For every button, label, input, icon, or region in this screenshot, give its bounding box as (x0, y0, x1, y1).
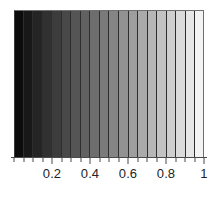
colormap-band (119, 10, 129, 157)
x-axis-tick (14, 157, 15, 162)
x-axis-tick (156, 157, 157, 162)
x-axis-tick-marks (14, 157, 204, 164)
colormap-band (138, 10, 148, 157)
colormap-band (43, 10, 53, 157)
colormap-band (167, 10, 177, 157)
colormap-band (52, 10, 62, 157)
x-axis-tick (99, 157, 100, 162)
x-axis-tick-label: 0.4 (81, 166, 99, 181)
x-axis-tick (118, 157, 119, 162)
colormap-band (100, 10, 110, 157)
x-axis-tick (185, 157, 186, 162)
x-axis-tick (61, 157, 62, 162)
x-axis-tick (33, 157, 34, 162)
colormap-band (148, 10, 158, 157)
colormap-band-strip (14, 10, 204, 157)
colormap-band (109, 10, 119, 157)
grayscale-colormap-figure: 0.20.40.60.81 (0, 0, 219, 198)
colormap-band (71, 10, 81, 157)
colormap-band (195, 10, 204, 157)
colormap-band (62, 10, 72, 157)
colormap-band (14, 10, 24, 157)
colormap-band (33, 10, 43, 157)
x-axis-tick (52, 157, 53, 164)
x-axis-tick (175, 157, 176, 162)
x-axis-tick-label: 0.2 (43, 166, 61, 181)
x-axis-tick (23, 157, 24, 162)
x-axis-tick (137, 157, 138, 162)
x-axis-tick (109, 157, 110, 162)
x-axis-tick (194, 157, 195, 162)
plot-area (14, 10, 204, 157)
x-axis-tick (42, 157, 43, 162)
colormap-band (24, 10, 34, 157)
x-axis-tick (204, 157, 205, 164)
x-axis-tick-label: 0.6 (119, 166, 137, 181)
x-axis-tick (90, 157, 91, 164)
colormap-band (81, 10, 91, 157)
colormap-band (129, 10, 139, 157)
x-axis-tick-label: 0.8 (157, 166, 175, 181)
x-axis-tick (128, 157, 129, 164)
x-axis-tick (71, 157, 72, 162)
colormap-band (157, 10, 167, 157)
x-axis-tick (166, 157, 167, 164)
colormap-band (90, 10, 100, 157)
x-axis-tick-labels: 0.20.40.60.81 (14, 166, 204, 186)
x-axis-tick-label: 1 (200, 166, 207, 181)
x-axis-tick (80, 157, 81, 162)
colormap-band (176, 10, 186, 157)
colormap-band (186, 10, 196, 157)
x-axis-tick (147, 157, 148, 162)
